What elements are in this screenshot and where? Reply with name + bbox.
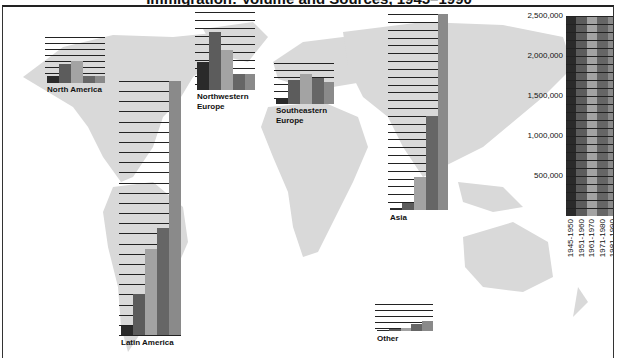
gridline (566, 80, 614, 81)
bar-1981-1990 (422, 321, 433, 331)
bar-1971-1980 (233, 74, 245, 90)
bar-1951-1960 (389, 329, 401, 331)
bar-1981-1990 (95, 76, 105, 83)
region-label-southeastern-europe: Southeastern Europe (276, 106, 336, 126)
bar-1945-1950 (377, 330, 389, 331)
gridline (195, 28, 255, 29)
bar-1971-1980 (411, 324, 422, 331)
gridline (375, 316, 433, 317)
gridline (45, 43, 105, 44)
bar-1971-1980 (157, 228, 169, 335)
gridline (195, 12, 255, 13)
gridline (566, 40, 614, 41)
legend-label-1961-1970: 1961-1970 (587, 219, 596, 257)
bar-1981-1990 (245, 74, 255, 90)
legend-label-1951-1960: 1951-1960 (577, 219, 586, 257)
bar-1971-1980 (83, 76, 95, 83)
gridline (566, 176, 614, 177)
legend-stripe-1971-1980 (597, 16, 607, 216)
bar-1945-1950 (47, 76, 59, 83)
panel-other: Other (375, 304, 433, 331)
gridline (566, 88, 614, 89)
bar-1961-1970 (71, 61, 83, 83)
gridline (566, 120, 614, 121)
panel-asia: Asia (388, 14, 448, 210)
panel-southeastern-europe: Southeastern Europe (274, 63, 334, 104)
legend-label-1971-1980: 1971-1980 (598, 219, 607, 257)
region-label-north-america: North America (47, 85, 102, 95)
bar-1981-1990 (169, 81, 181, 335)
gridline (566, 128, 614, 129)
region-label-asia: Asia (390, 213, 407, 223)
gridline (195, 36, 255, 37)
panel-latin-america: Latin America (119, 81, 181, 335)
gridline (566, 144, 614, 145)
chart-frame: North America Latin America Northwestern… (2, 5, 614, 358)
gridline (566, 16, 614, 17)
bar-1981-1990 (324, 82, 334, 104)
gridline (45, 37, 105, 38)
gridline (274, 63, 334, 64)
bar-1971-1980 (312, 78, 324, 104)
bar-1951-1960 (288, 80, 300, 104)
bar-1961-1970 (414, 177, 426, 210)
legend-stripe-1951-1960 (576, 16, 586, 216)
bar-1945-1950 (390, 208, 402, 210)
bar-1951-1960 (59, 64, 71, 83)
legend-scale (566, 16, 614, 216)
bar-1961-1970 (221, 50, 233, 90)
axis-tick-1500000: 1,500,000 (527, 91, 563, 100)
gridline (566, 168, 614, 169)
gridline (566, 32, 614, 33)
gridline (566, 136, 614, 137)
gridline (566, 64, 614, 65)
axis-tick-2500000: 2,500,000 (527, 11, 563, 20)
gridline (45, 55, 105, 56)
gridline (566, 160, 614, 161)
bar-1971-1980 (426, 116, 438, 210)
bar-1961-1970 (401, 328, 411, 331)
gridline (195, 44, 255, 45)
panel-northwestern-europe: Northwestern Europe (195, 12, 255, 90)
gridline (566, 104, 614, 105)
bar-1951-1960 (402, 203, 414, 210)
legend-label-1945-1950: 1945-1950 (566, 219, 575, 257)
gridline (566, 24, 614, 25)
gridline (274, 70, 334, 71)
bar-1945-1950 (276, 98, 288, 104)
gridline (195, 20, 255, 21)
bar-1945-1950 (197, 62, 209, 90)
axis-tick-1000000: 1,000,000 (527, 131, 563, 140)
gridline (566, 208, 614, 209)
gridline (566, 112, 614, 113)
gridline (566, 192, 614, 193)
gridline (566, 56, 614, 57)
axis-tick-500000: 500,000 (534, 171, 563, 180)
bar-1951-1960 (209, 32, 221, 90)
panel-north-america: North America (45, 37, 105, 83)
legend-stripe-1981-1990 (608, 16, 614, 216)
bar-1981-1990 (438, 14, 448, 210)
bar-1945-1950 (121, 326, 133, 335)
gridline (566, 184, 614, 185)
gridline (566, 48, 614, 49)
axis-tick-2000000: 2,000,000 (527, 51, 563, 60)
gridline (119, 335, 181, 336)
gridline (566, 200, 614, 201)
region-label-latin-america: Latin America (121, 338, 174, 348)
legend-stripe-1945-1950 (566, 16, 576, 216)
legend-stripe-1961-1970 (587, 16, 597, 216)
legend-label-1981-1990: 1981-1990 (608, 219, 614, 257)
gridline (375, 304, 433, 305)
gridline (566, 96, 614, 97)
bar-1951-1960 (133, 294, 145, 335)
region-label-northwestern-europe: Northwestern Europe (197, 92, 257, 112)
bar-1961-1970 (300, 74, 312, 104)
bar-1961-1970 (145, 249, 157, 335)
gridline (566, 72, 614, 73)
gridline (45, 49, 105, 50)
region-label-other: Other (377, 334, 398, 344)
gridline (375, 310, 433, 311)
gridline (566, 152, 614, 153)
